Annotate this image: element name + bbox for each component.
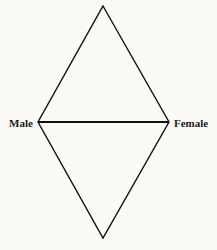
male-label: Male	[9, 117, 33, 129]
female-label: Female	[174, 117, 208, 129]
